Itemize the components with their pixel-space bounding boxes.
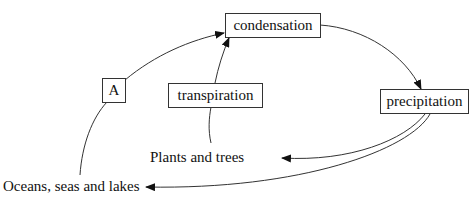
node-condensation-label: condensation — [233, 18, 312, 33]
edge-precipitation-to-plants — [282, 114, 425, 158]
edge-transpiration-to-condensation — [215, 38, 229, 83]
node-transpiration: transpiration — [168, 83, 263, 108]
water-cycle-diagram: condensation A transpiration precipitati… — [0, 0, 476, 203]
edge-a-to-condensation — [125, 33, 224, 80]
edge-plants-to-transpiration — [209, 107, 211, 143]
node-transpiration-label: transpiration — [178, 88, 254, 103]
node-precipitation: precipitation — [380, 89, 469, 114]
node-precipitation-label: precipitation — [387, 94, 463, 109]
node-plants-and-trees: Plants and trees — [150, 150, 244, 165]
node-a: A — [102, 78, 126, 103]
node-condensation: condensation — [225, 13, 321, 38]
node-a-label: A — [109, 83, 120, 98]
edge-oceans-to-a — [80, 102, 107, 175]
edge-condensation-to-precipitation — [320, 25, 421, 89]
node-oceans-seas-lakes: Oceans, seas and lakes — [3, 179, 140, 194]
